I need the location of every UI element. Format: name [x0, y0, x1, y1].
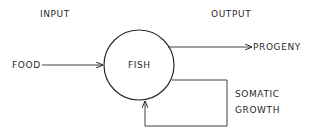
growth-label: GROWTH — [235, 106, 280, 115]
somatic-label: SOMATIC — [235, 90, 280, 99]
progeny-label: PROGENY — [253, 43, 301, 52]
input-header: INPUT — [40, 10, 70, 19]
food-label: FOOD — [12, 61, 41, 70]
output-header: OUTPUT — [211, 10, 251, 19]
fish-label: FISH — [128, 61, 151, 70]
somatic-growth-loop — [145, 80, 227, 126]
